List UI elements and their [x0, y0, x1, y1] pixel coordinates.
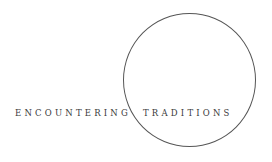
circle-icon — [123, 13, 256, 147]
logo-word-traditions: TRADITIONS — [143, 108, 233, 118]
logo-word-encountering: ENCOUNTERING — [15, 108, 131, 118]
